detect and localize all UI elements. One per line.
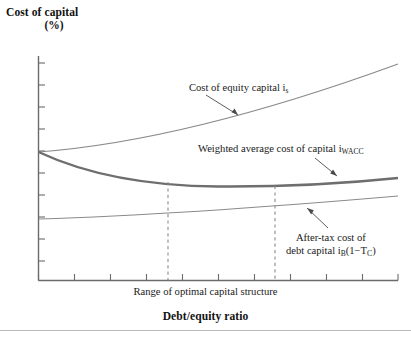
after-tax-debt-label-line2-mid: (1−T bbox=[346, 245, 367, 256]
after-tax-debt-label-line2: debt capital iB(1−TC) bbox=[286, 245, 376, 259]
cost-of-capital-figure: Cost of capital (%) bbox=[0, 0, 411, 337]
wacc-label: Weighted average cost of capital iWACC bbox=[198, 143, 364, 156]
wacc-curve bbox=[39, 152, 399, 187]
wacc-leader bbox=[315, 158, 337, 176]
optimal-range-label: Range of optimal capital structure bbox=[0, 286, 411, 297]
after-tax-debt-label-line1: After-tax cost of bbox=[286, 232, 376, 245]
cost-of-equity-label-text: Cost of equity capital i bbox=[189, 82, 286, 93]
after-tax-debt-leader bbox=[307, 208, 328, 228]
cost-of-equity-leader bbox=[206, 95, 238, 115]
wacc-label-text: Weighted average cost of capital i bbox=[198, 143, 342, 154]
after-tax-debt-label-line2-post: ) bbox=[372, 245, 376, 256]
after-tax-debt-curve bbox=[39, 196, 399, 219]
after-tax-debt-label-sub-c: C bbox=[367, 249, 372, 258]
cost-of-equity-curve bbox=[39, 64, 399, 152]
after-tax-debt-label-sub-b: B bbox=[341, 249, 346, 258]
x-axis-title: Debt/equity ratio bbox=[0, 310, 411, 323]
bottom-divider bbox=[0, 330, 411, 331]
after-tax-debt-label-line2-pre: debt capital i bbox=[286, 245, 341, 256]
x-axis-ticks bbox=[39, 274, 399, 281]
cost-of-equity-label: Cost of equity capital is bbox=[189, 82, 288, 95]
after-tax-debt-label: After-tax cost of debt capital iB(1−TC) bbox=[286, 232, 376, 258]
wacc-label-subscript: WACC bbox=[342, 147, 364, 156]
cost-of-equity-label-subscript: s bbox=[286, 86, 289, 95]
y-axis-ticks bbox=[39, 63, 46, 261]
